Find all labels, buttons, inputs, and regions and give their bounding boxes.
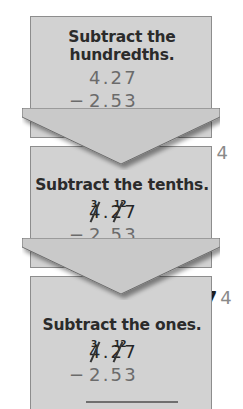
step-3-subtrahend-row: − 2.53 [31, 364, 213, 387]
step-2-rule [86, 261, 178, 263]
step-1-subtrahend-row: − 2.53 [31, 90, 213, 113]
figure-canvas: Subtract the hundredths. 4.27 − 2.53 4 [0, 0, 243, 409]
step-panel-2: Subtract the tenths. 3 12 4.27 − 2.53 74 [30, 146, 212, 268]
step-2-math: 3 12 4.27 − 2.53 74 [31, 199, 213, 247]
step-2-subtrahend: 2.53 [89, 224, 138, 245]
step-1-math: 4.27 − 2.53 4 [31, 67, 213, 113]
step-1-heading-line-1: Subtract the [31, 29, 213, 47]
step-3-subtrahend: 2.53 [89, 364, 138, 385]
step-3-minuend-row: 4.27 [31, 341, 213, 364]
step-2-operator: − [69, 224, 84, 245]
step-2-subtrahend-row: − 2.53 [31, 224, 213, 247]
step-1-heading: Subtract the hundredths. [31, 29, 213, 64]
step-1-subtrahend: 2.53 [89, 90, 138, 111]
step-1-minuend: 4.27 [89, 67, 138, 88]
step-3-heading: Subtract the ones. [31, 317, 213, 335]
step-2-heading: Subtract the tenths. [31, 177, 213, 195]
step-2-answer-old-digit: 4 [220, 287, 234, 308]
step-2-minuend-row: 4.27 [31, 201, 213, 224]
step-1-rule [86, 115, 178, 117]
step-1-minuend-row: 4.27 [31, 67, 213, 90]
step-1-operator: − [69, 90, 84, 111]
step-3-operator: − [69, 364, 84, 385]
step-1-heading-line-2: hundredths. [31, 47, 213, 65]
step-panel-1: Subtract the hundredths. 4.27 − 2.53 4 [30, 16, 212, 138]
step-2-heading-line-1: Subtract the tenths. [31, 177, 213, 195]
step-panel-3: Subtract the ones. 3 12 4.27 − 2.53 [30, 276, 212, 409]
step-1-answer-new-digit: 4 [216, 142, 230, 163]
step-3-math: 3 12 4.27 − 2.53 [31, 339, 213, 387]
step-3-rule [86, 401, 178, 403]
step-3-heading-line-1: Subtract the ones. [31, 317, 213, 335]
